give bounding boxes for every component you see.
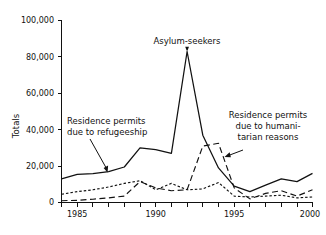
chart-figure: 0 20,000 40,000 60,000 80,000 100,000 To… xyxy=(0,0,326,235)
annotation-asylum-seekers: Asylum-seekers xyxy=(153,36,221,52)
annotation-humanitarian-line-1: Residence permits xyxy=(229,110,308,120)
y-axis-title: Totals xyxy=(11,113,21,139)
annotation-humanitarian: Residence permits due to humani- tarian … xyxy=(225,110,308,157)
x-axis-ticks xyxy=(62,203,313,207)
x-tick-label-1990: 1990 xyxy=(146,210,166,219)
x-tick-label-1985: 1985 xyxy=(67,210,87,219)
annotation-humanitarian-line-2: due to humani- xyxy=(235,121,300,131)
x-axis-tick-labels: 1985 1990 1995 2000 xyxy=(67,210,320,219)
annotation-refugeeship-line-1: Residence permits xyxy=(67,116,146,126)
y-axis-tick-labels: 0 20,000 40,000 60,000 80,000 100,000 xyxy=(21,16,54,207)
y-axis-ticks xyxy=(58,21,62,203)
y-tick-label-60000: 60,000 xyxy=(26,89,54,98)
annotation-asylum-seekers-line-1: Asylum-seekers xyxy=(153,36,221,46)
line-chart: 0 20,000 40,000 60,000 80,000 100,000 To… xyxy=(0,0,326,235)
y-tick-label-100000: 100,000 xyxy=(21,16,54,25)
x-tick-label-1995: 1995 xyxy=(224,210,244,219)
annotation-humanitarian-leader xyxy=(229,150,244,156)
annotation-asylum-seekers-arrow-icon xyxy=(185,47,189,52)
y-tick-label-40000: 40,000 xyxy=(26,126,54,135)
annotation-refugeeship-line-2: due to refugeeship xyxy=(67,127,147,137)
series-line-humanitarian xyxy=(62,143,313,200)
annotation-humanitarian-line-3: tarian reasons xyxy=(238,132,299,142)
y-tick-label-0: 0 xyxy=(49,198,54,207)
annotation-humanitarian-arrow-icon xyxy=(225,152,231,157)
y-tick-label-20000: 20,000 xyxy=(26,162,54,171)
x-tick-label-2000: 2000 xyxy=(300,210,320,219)
y-tick-label-80000: 80,000 xyxy=(26,53,54,62)
annotation-refugeeship: Residence permits due to refugeeship xyxy=(67,116,147,173)
annotation-refugeeship-leader xyxy=(90,139,107,169)
